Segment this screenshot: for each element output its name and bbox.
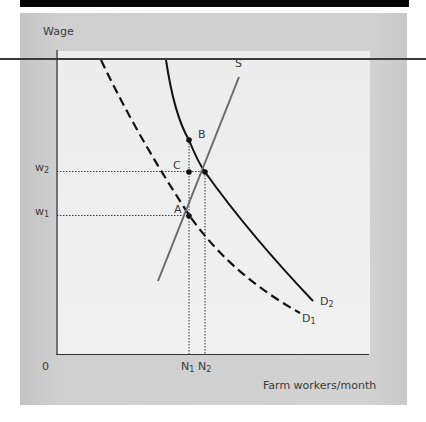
n2-main: N	[198, 360, 206, 373]
w2-main: w	[35, 161, 44, 174]
supply-curve	[158, 77, 239, 281]
d2-label: D2	[320, 295, 334, 309]
point-b-label: B	[198, 128, 206, 141]
origin-label: 0	[42, 360, 49, 373]
point-e	[202, 169, 208, 175]
w1-main: w	[35, 205, 44, 218]
n1-main: N	[181, 360, 189, 373]
n1-tick-label: N1	[181, 360, 194, 374]
d1-label: D1	[302, 312, 316, 326]
point-b	[186, 137, 192, 143]
w2-tick-label: w2	[35, 161, 49, 175]
demand-curve-d2	[166, 60, 313, 301]
supply-label: S	[235, 57, 242, 70]
demand-curve-d1	[101, 60, 300, 313]
y-axis-label: Wage	[43, 25, 74, 38]
n2-tick-label: N2	[198, 360, 211, 374]
point-c	[186, 169, 192, 175]
labor-market-diagram	[0, 0, 426, 422]
x-axis-label: Farm workers/month	[263, 379, 376, 392]
n2-sub: 2	[206, 365, 211, 374]
point-c-label: C	[173, 159, 181, 172]
point-a-label: A	[174, 203, 182, 216]
n1-sub: 1	[189, 365, 194, 374]
d2-label-sub: 2	[328, 300, 333, 309]
d1-label-sub: 1	[310, 317, 315, 326]
point-a	[186, 213, 192, 219]
w1-tick-label: w1	[35, 205, 49, 219]
w2-sub: 2	[44, 166, 49, 175]
w1-sub: 1	[44, 210, 49, 219]
